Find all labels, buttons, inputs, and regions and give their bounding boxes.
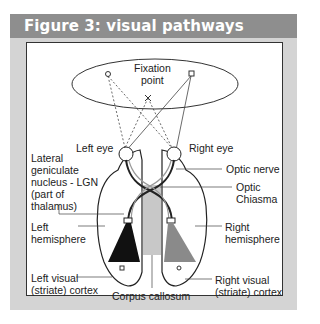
left-visual-cortex-label: Left visual (striate) cortex [31,272,98,296]
right-eye-shape [167,147,181,161]
right-eye-label: Right eye [189,142,233,154]
right-hemisphere-label: Right hemisphere [225,221,280,245]
right-lgn-shape [167,218,175,223]
left-target-circle-icon [106,72,111,77]
left-eye-shape [119,147,133,161]
left-lgn-shape [124,218,132,223]
lgn-label: Lateral geniculate nucleus - LGN (part o… [31,152,98,212]
fixation-point-label: Fixation point [134,62,171,86]
corpus-callosum-label: Corpus callosum [112,290,190,302]
left-hemisphere-label: Left hemisphere [31,221,86,245]
right-target-square-icon [189,71,194,76]
optic-chiasma-label: Optic Chiasma [236,181,277,205]
optic-nerve-label: Optic nerve [226,163,280,175]
right-visual-cortex-label: Right visual (striate) cortex [215,274,282,298]
